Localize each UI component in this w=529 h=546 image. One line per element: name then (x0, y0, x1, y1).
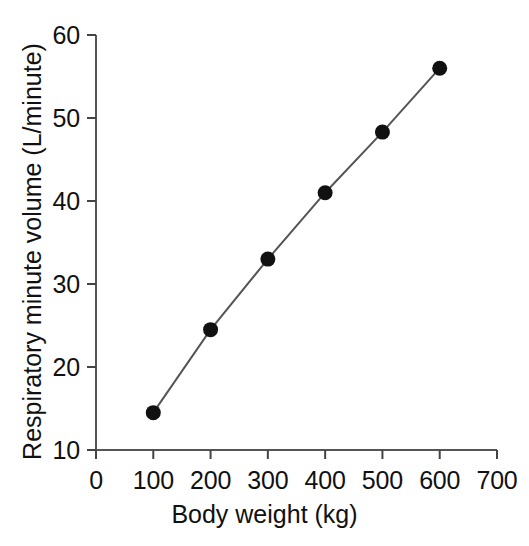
data-point-marker (260, 252, 275, 267)
data-point-marker (146, 405, 161, 420)
y-axis-ticks (87, 35, 96, 450)
data-point-marker (432, 61, 447, 76)
x-axis-tick-label: 100 (133, 466, 174, 495)
axis-lines (96, 35, 497, 450)
data-point-marker (318, 185, 333, 200)
x-axis-tick-label: 400 (305, 466, 346, 495)
x-axis-tick-label: 200 (190, 466, 231, 495)
x-axis-tick-label: 600 (419, 466, 460, 495)
x-axis-title: Body weight (kg) (0, 500, 529, 529)
x-axis-ticks (96, 450, 497, 459)
data-series-markers (146, 61, 447, 420)
x-axis-tick-label: 300 (247, 466, 288, 495)
data-point-marker (375, 125, 390, 140)
data-series-line (153, 68, 439, 412)
x-axis-tick-label: 0 (89, 466, 103, 495)
x-axis-tick-label: 500 (362, 466, 403, 495)
data-point-marker (203, 322, 218, 337)
x-axis-tick-label: 700 (476, 466, 517, 495)
chart-figure: 102030405060 0100200300400500600700 Resp… (0, 0, 529, 546)
y-axis-title: Respiratory minute volume (L/minute) (18, 32, 47, 472)
